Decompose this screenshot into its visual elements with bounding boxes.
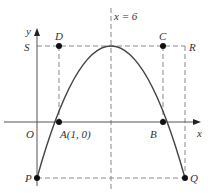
point-B	[160, 119, 166, 125]
label-P: P	[24, 172, 32, 184]
symmetry-line-label: x = 6	[113, 10, 138, 22]
origin-label: O	[26, 128, 34, 140]
label-A: A(1, 0)	[59, 128, 91, 141]
point-Q	[182, 175, 188, 181]
label-R: R	[188, 41, 196, 53]
label-Q: Q	[190, 172, 198, 184]
x-axis-label: x	[196, 127, 202, 139]
point-P	[34, 175, 40, 181]
point-C	[160, 43, 166, 49]
axes	[4, 34, 197, 186]
point-A	[56, 119, 62, 125]
label-S: S	[24, 41, 30, 53]
y-axis-arrow-icon	[34, 28, 40, 36]
label-C: C	[159, 30, 167, 42]
y-axis-label: y	[25, 25, 31, 37]
label-D: D	[54, 30, 63, 42]
label-B: B	[150, 128, 157, 140]
parabola-diagram: y x O x = 6 S D C R A(1, 0) B P Q	[0, 0, 208, 193]
x-axis-arrow-icon	[193, 119, 201, 125]
point-D	[56, 43, 62, 49]
